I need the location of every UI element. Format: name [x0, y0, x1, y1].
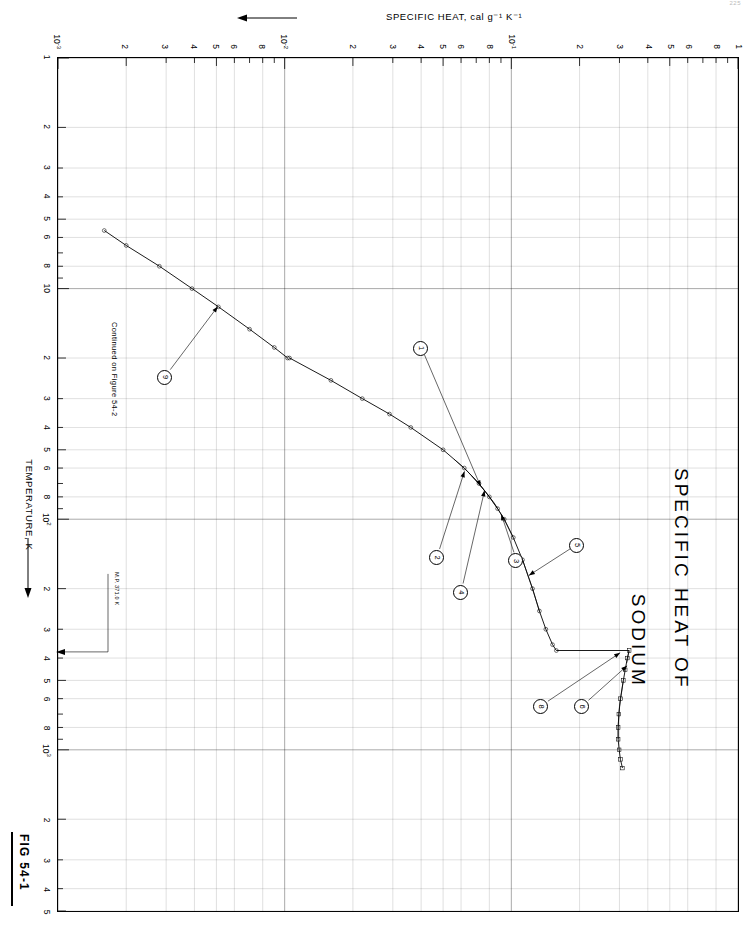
- callout-5: 5: [569, 538, 584, 553]
- callout-8: 8: [533, 699, 548, 714]
- callout-2: 2: [429, 550, 444, 565]
- callout-4: 4: [453, 585, 468, 600]
- rotated-figure-canvas: M.P. 371.0 K SPECIFIC HEAT OF SODIUM Con…: [0, 0, 747, 945]
- callout-1: 1: [413, 341, 428, 356]
- callout-leaders: [0, 0, 747, 945]
- callout-9: 9: [157, 370, 172, 385]
